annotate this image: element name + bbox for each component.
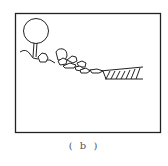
hatched-water-edge-icon <box>103 68 140 79</box>
figure-frame <box>16 14 161 133</box>
figure-caption: ( b ) <box>0 140 168 151</box>
rocks-icon <box>38 49 103 73</box>
